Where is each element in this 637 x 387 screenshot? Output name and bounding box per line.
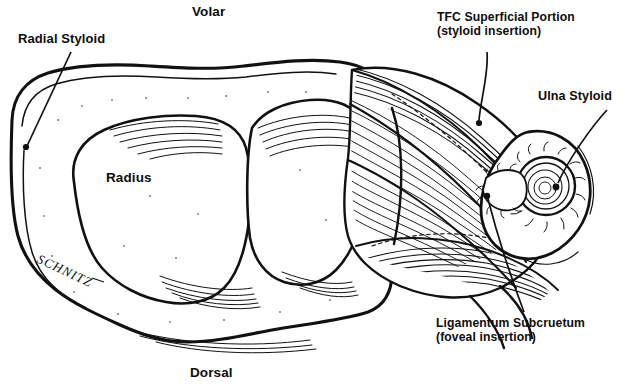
label-ulna-styloid: Ulna Styloid — [538, 89, 612, 104]
orientation-label-volar: Volar — [192, 4, 225, 20]
label-radius: Radius — [106, 170, 152, 186]
label-tfc-line1: TFC Superficial Portion — [437, 10, 575, 24]
label-radial-styloid: Radial Styloid — [18, 31, 105, 46]
figure-canvas: SCHNITZ Volar Dorsal Radial Styloid Radi… — [0, 0, 637, 387]
label-tfc-superficial-portion: TFC Superficial Portion (styloid inserti… — [437, 10, 575, 39]
label-tfc-line2: (styloid insertion) — [437, 24, 575, 38]
label-ligament-line2: (foveal insertion) — [436, 330, 585, 344]
label-ligament-line1: Ligamentum Subcruetum — [436, 316, 585, 330]
orientation-label-dorsal: Dorsal — [190, 365, 233, 381]
label-ligamentum-subcruetum: Ligamentum Subcruetum (foveal insertion) — [436, 316, 585, 345]
radius-articular-lobes — [73, 100, 370, 304]
